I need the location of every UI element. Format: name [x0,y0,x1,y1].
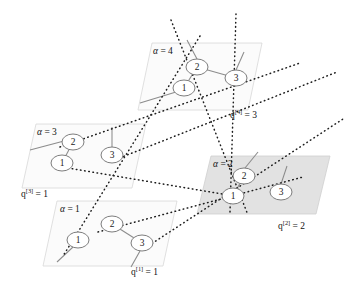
node-l1n3[interactable]: 3 [131,235,153,251]
alpha-value: 3 [52,127,57,137]
q-label-layer-2: q[2] = 2 [278,222,305,232]
alpha-symbol: α [213,159,218,169]
node-label: 1 [76,235,81,245]
q-equals: = [245,110,250,120]
node-label: 1 [231,191,236,201]
node-label: 2 [110,219,115,229]
alpha-label-layer-2: α = 2 [213,160,233,170]
q-equals: = [293,221,298,231]
alpha-value: 4 [168,46,173,56]
alpha-label-layer-3: α = 3 [37,128,57,138]
node-label: 1 [182,83,187,93]
node-l2n3[interactable]: 3 [270,184,292,200]
alpha-equals: = [67,204,72,214]
q-value: 2 [300,221,305,231]
node-label: 2 [195,62,200,72]
q-label-layer-3: q[3] = 1 [21,190,48,200]
q-superscript: [2] [283,219,290,226]
q-superscript: [3] [26,187,33,194]
node-l3n3[interactable]: 3 [101,147,123,163]
node-label: 1 [60,158,65,168]
alpha-equals: = [160,46,165,56]
q-superscript: [1] [136,265,143,272]
node-label: 3 [140,238,145,248]
alpha-label-layer-4: α = 4 [153,47,173,57]
q-value: 1 [153,267,158,277]
multilayer-network-diagram: 1 2 3 1 2 3 [0,0,355,295]
alpha-symbol: α [60,204,65,214]
q-label-layer-4: q[4] = 3 [230,111,257,121]
node-label: 3 [279,187,284,197]
alpha-equals: = [44,127,49,137]
q-equals: = [146,267,151,277]
q-label-layer-1: q[1] = 1 [131,268,158,278]
node-label: 2 [242,171,247,181]
node-l4n3[interactable]: 3 [225,70,247,86]
node-label: 3 [110,150,115,160]
alpha-symbol: α [153,46,158,56]
diagram-canvas: 1 2 3 1 2 3 [0,0,355,295]
q-equals: = [36,189,41,199]
node-l1n1[interactable]: 1 [67,232,89,248]
alpha-symbol: α [37,127,42,137]
node-l4n1[interactable]: 1 [173,80,195,96]
q-superscript: [4] [235,108,242,115]
alpha-value: 1 [75,204,80,214]
node-l4n2[interactable]: 2 [186,59,208,75]
q-value: 3 [252,110,257,120]
node-l2n2[interactable]: 2 [233,168,255,184]
alpha-value: 2 [228,159,233,169]
alpha-label-layer-1: α = 1 [60,205,80,215]
node-label: 3 [234,73,239,83]
node-l3n1[interactable]: 1 [51,155,73,171]
node-l3n2[interactable]: 2 [62,134,84,150]
node-l1n2[interactable]: 2 [101,216,123,232]
alpha-equals: = [220,159,225,169]
node-l2n1[interactable]: 1 [222,188,244,204]
node-label: 2 [71,137,76,147]
q-value: 1 [43,189,48,199]
